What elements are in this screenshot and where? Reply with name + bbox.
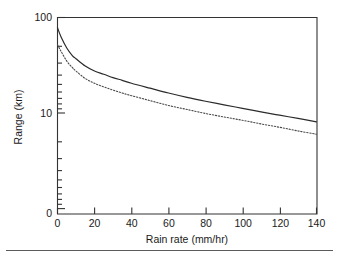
x-tick-label-80: 80 [200,217,212,229]
x-tick-label-20: 20 [89,217,101,229]
y-axis-title: Range (km) [12,90,24,145]
figure-bottom-rule [6,250,333,251]
x-tick-label-60: 60 [163,217,175,229]
x-tick-label-120: 120 [272,217,290,229]
x-tick-label-0: 0 [55,217,61,229]
rain-rate-range-chart: 100 10 0 0 20 40 60 80 100 120 140 Rain … [0,0,339,258]
x-axis-title: Rain rate (mm/hr) [146,233,228,245]
y-tick-label-0: 0 [46,207,52,219]
x-tick-label-140: 140 [308,217,326,229]
y-tick-label-100: 100 [34,11,52,23]
x-tick-label-40: 40 [126,217,138,229]
x-tick-label-100: 100 [234,217,252,229]
y-tick-label-10: 10 [40,107,52,119]
chart-figure: 100 10 0 0 20 40 60 80 100 120 140 Rain … [0,0,339,258]
